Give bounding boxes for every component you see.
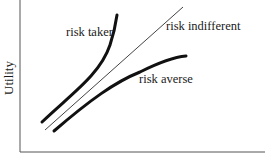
risk-averse-label: risk averse	[139, 72, 193, 86]
utility-chart: risk taker risk indifferent risk averse …	[0, 0, 265, 157]
risk-indifferent-label: risk indifferent	[166, 19, 241, 33]
risk-taker-label: risk taker	[66, 25, 114, 39]
chart-svg: risk taker risk indifferent risk averse …	[0, 0, 265, 157]
y-axis-label: Utility	[1, 61, 16, 95]
